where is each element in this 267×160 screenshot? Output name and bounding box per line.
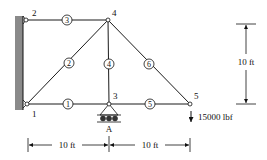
member-label-5: 5: [145, 99, 155, 109]
svg-text:3: 3: [65, 16, 69, 25]
roller-support-A: [97, 104, 121, 122]
node-4: [106, 18, 110, 22]
horizontal-dimension-right-label: 10 ft: [142, 140, 159, 150]
truss-diagram: 1 2 3 4 5 6: [0, 0, 267, 160]
member-label-6: 6: [144, 59, 154, 69]
node-3: [107, 102, 111, 106]
svg-text:6: 6: [147, 60, 151, 69]
node-label-3: 3: [113, 91, 118, 101]
node-label-5: 5: [194, 91, 199, 101]
svg-text:4: 4: [107, 60, 111, 69]
svg-text:2: 2: [67, 59, 71, 68]
horizontal-dimension: [28, 136, 190, 152]
vertical-dimension-label: 10 ft: [238, 57, 255, 67]
horizontal-dimension-left-label: 10 ft: [59, 140, 76, 150]
svg-text:5: 5: [148, 100, 152, 109]
member-label-1: 1: [63, 99, 73, 109]
wall-support: [15, 16, 23, 110]
node-2: [24, 18, 28, 22]
node-5: [188, 102, 192, 106]
member-label-2: 2: [64, 58, 74, 68]
node-label-4: 4: [112, 8, 117, 18]
svg-text:1: 1: [66, 100, 70, 109]
node-label-1: 1: [32, 109, 37, 119]
node-label-2: 2: [32, 8, 37, 18]
support-label: A: [106, 124, 113, 134]
member-label-3: 3: [62, 15, 72, 25]
load-label: 15000 lbf: [198, 112, 233, 122]
node-1: [25, 102, 29, 106]
member-label-4: 4: [104, 59, 114, 69]
